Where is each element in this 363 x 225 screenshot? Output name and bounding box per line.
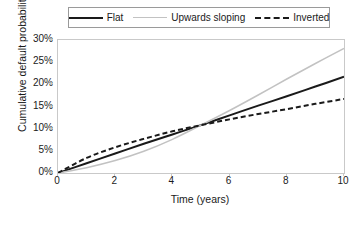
x-tick-label: 8 — [266, 176, 306, 186]
y-tick-label: 5% — [7, 145, 53, 155]
chart-figure: Flat Upwards sloping Inverted 0%5%10%15%… — [0, 0, 363, 225]
solid-black-line-icon — [69, 13, 103, 23]
x-tick-label: 4 — [151, 176, 191, 186]
dashed-black-line-icon — [255, 13, 289, 23]
legend-item-label: Upwards sloping — [171, 13, 245, 23]
y-tick-mark — [49, 172, 53, 173]
legend-item-inverted[interactable]: Inverted — [255, 13, 329, 23]
legend-item-label: Flat — [107, 13, 124, 23]
legend-item-label: Inverted — [293, 13, 329, 23]
x-tick-label: 2 — [94, 176, 134, 186]
y-tick-label: 15% — [7, 101, 53, 111]
y-tick-label: 20% — [7, 78, 53, 88]
y-tick-mark — [49, 128, 53, 129]
plot-area — [57, 39, 345, 174]
y-tick-mark — [49, 39, 53, 40]
y-tick-mark — [49, 106, 53, 107]
y-tick-label: 10% — [7, 123, 53, 133]
chart-legend: Flat Upwards sloping Inverted — [68, 7, 330, 28]
y-axis-title: Cumulative default probability — [16, 0, 28, 138]
legend-item-flat[interactable]: Flat — [69, 13, 124, 23]
x-tick-label: 6 — [209, 176, 249, 186]
series-line-upwards-sloping — [58, 48, 344, 173]
y-tick-mark — [49, 83, 53, 84]
x-axis-title: Time (years) — [57, 193, 343, 205]
y-tick-mark — [49, 61, 53, 62]
solid-gray-line-icon — [133, 13, 167, 23]
series-line-inverted — [58, 99, 344, 173]
series-lines — [58, 40, 344, 173]
legend-item-upwards-sloping[interactable]: Upwards sloping — [133, 13, 245, 23]
x-tick-label: 10 — [323, 176, 363, 186]
y-tick-mark — [49, 150, 53, 151]
y-tick-label: 30% — [7, 34, 53, 44]
y-tick-label: 25% — [7, 56, 53, 66]
x-tick-label: 0 — [37, 176, 77, 186]
